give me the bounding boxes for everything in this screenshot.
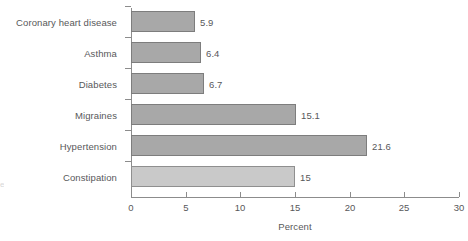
bar-value-label: 15.1 (301, 109, 320, 120)
category-label: Diabetes (79, 78, 117, 89)
bar-row: Hypertension21.6 (0, 135, 468, 156)
y-axis-tick (125, 68, 131, 69)
category-label: Asthma (84, 47, 117, 58)
bar-value-label: 6.7 (209, 78, 223, 89)
x-axis-tick-label: 5 (183, 202, 188, 213)
category-label: Hypertension (60, 140, 117, 151)
x-axis-tick-label: 20 (345, 202, 356, 213)
x-axis-tick-label: 0 (128, 202, 133, 213)
x-axis-tick-label: 10 (235, 202, 246, 213)
x-axis-tick (131, 192, 132, 197)
x-axis-line (131, 197, 459, 198)
x-axis-tick (404, 192, 405, 197)
bar (131, 11, 195, 32)
y-axis-tick (125, 6, 131, 7)
y-axis-tick (125, 130, 131, 131)
x-axis-tick (459, 192, 460, 197)
bar-row: Migraines15.1 (0, 104, 468, 125)
y-axis-tick (125, 37, 131, 38)
y-axis-tick (125, 161, 131, 162)
x-axis-title: Percent (131, 221, 459, 232)
bar-chart: e Coronary heart disease5.9Asthma6.4Diab… (0, 0, 468, 241)
category-label: Coronary heart disease (16, 16, 117, 27)
bar-value-label: 5.9 (200, 16, 214, 27)
bar-row: Constipation15 (0, 166, 468, 187)
bar (131, 166, 295, 187)
bar-value-label: 6.4 (206, 47, 220, 58)
bar-value-label: 21.6 (372, 140, 391, 151)
x-axis-tick (295, 192, 296, 197)
bar (131, 135, 367, 156)
bar-row: Asthma6.4 (0, 42, 468, 63)
bar-value-label: 15 (300, 171, 311, 182)
bar (131, 73, 204, 94)
x-axis-tick-label: 25 (399, 202, 410, 213)
y-axis-tick (125, 99, 131, 100)
category-label: Constipation (63, 171, 117, 182)
x-axis-tick-label: 30 (454, 202, 465, 213)
category-label: Migraines (75, 109, 117, 120)
x-axis-tick (350, 192, 351, 197)
x-axis-tick (240, 192, 241, 197)
bar-row: Coronary heart disease5.9 (0, 11, 468, 32)
x-axis-tick (186, 192, 187, 197)
bar-row: Diabetes6.7 (0, 73, 468, 94)
bar (131, 42, 201, 63)
bar (131, 104, 296, 125)
x-axis-tick-label: 15 (290, 202, 301, 213)
